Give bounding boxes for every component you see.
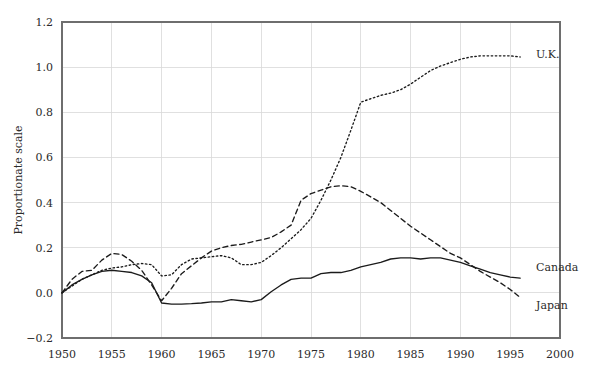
x-tick-label: 1975 — [297, 348, 325, 361]
y-tick-label: 1.0 — [36, 61, 54, 74]
x-tick-label: 1970 — [247, 348, 275, 361]
y-axis-title: Proportionate scale — [12, 125, 25, 234]
y-tick-label: 1.2 — [36, 16, 54, 29]
chart-container: −0.20.00.20.40.60.81.01.2 19501955196019… — [0, 0, 594, 379]
series-label-uk: U.K. — [536, 48, 559, 61]
line-chart: −0.20.00.20.40.60.81.01.2 19501955196019… — [0, 0, 594, 379]
x-tick-label: 1955 — [98, 348, 126, 361]
x-tick-label: 2000 — [546, 348, 574, 361]
y-tick-label: 0.4 — [36, 197, 54, 210]
y-axis-tick-labels: −0.20.00.20.40.60.81.01.2 — [26, 16, 53, 345]
series-line-uk — [62, 56, 520, 293]
x-axis-tick-labels: 1950195519601965197019751980198519901995… — [48, 348, 574, 361]
x-tick-label: 1985 — [397, 348, 425, 361]
data-series — [62, 56, 520, 304]
series-label-canada: Canada — [536, 261, 579, 274]
series-labels: U.K.JapanCanada — [535, 48, 579, 313]
x-tick-label: 1965 — [197, 348, 225, 361]
x-tick-label: 1980 — [347, 348, 375, 361]
y-tick-label: 0.0 — [36, 287, 54, 300]
x-tick-label: 1990 — [446, 348, 474, 361]
x-tick-label: 1960 — [148, 348, 176, 361]
grid-lines — [62, 22, 560, 338]
y-tick-label: −0.2 — [26, 332, 53, 345]
series-label-japan: Japan — [535, 299, 568, 312]
y-tick-label: 0.6 — [36, 151, 54, 164]
y-tick-label: 0.2 — [36, 242, 54, 255]
x-tick-label: 1950 — [48, 348, 76, 361]
x-tick-label: 1995 — [496, 348, 524, 361]
y-tick-label: 0.8 — [36, 106, 54, 119]
